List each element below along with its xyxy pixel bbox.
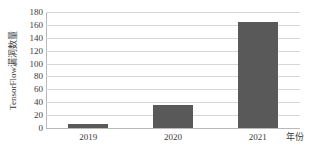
y-tick-label: 140 xyxy=(30,33,44,42)
y-tick-label: 0 xyxy=(39,124,44,133)
y-axis-title-text: TensorFlow漏洞数量 xyxy=(6,31,19,110)
y-axis-tick-labels: 020406080100120140160180 xyxy=(18,12,43,128)
x-axis-title: 年份 xyxy=(286,131,304,143)
x-axis-tick-labels: 201920202021 xyxy=(46,131,300,145)
x-tick-label: 2021 xyxy=(249,131,267,143)
y-tick-label: 20 xyxy=(34,111,43,120)
gridline xyxy=(46,128,300,129)
bar-chart-figure: TensorFlow漏洞数量 020406080100120140160180 … xyxy=(0,0,315,165)
y-tick-label: 80 xyxy=(34,72,43,81)
y-tick-label: 60 xyxy=(34,85,43,94)
y-tick-label: 180 xyxy=(30,8,44,17)
bar xyxy=(153,105,193,128)
bar xyxy=(68,124,108,128)
bar xyxy=(238,22,278,128)
y-tick-label: 40 xyxy=(34,98,43,107)
bar-series xyxy=(46,12,300,128)
x-tick-label: 2019 xyxy=(79,131,97,143)
y-tick-label: 160 xyxy=(30,20,44,29)
y-tick-label: 100 xyxy=(30,59,44,68)
plot-area xyxy=(46,12,300,128)
y-tick-label: 120 xyxy=(30,46,44,55)
x-tick-label: 2020 xyxy=(164,131,182,143)
